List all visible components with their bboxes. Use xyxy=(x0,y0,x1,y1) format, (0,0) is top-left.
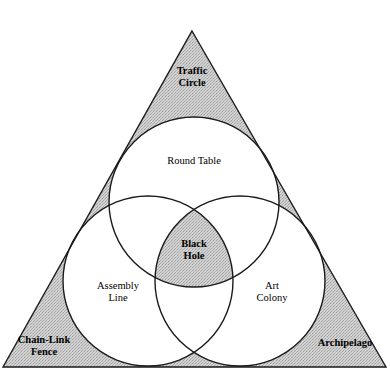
venn-diagram-canvas xyxy=(0,0,390,379)
venn-diagram-figure: Cooperation xyxy=(0,0,390,379)
